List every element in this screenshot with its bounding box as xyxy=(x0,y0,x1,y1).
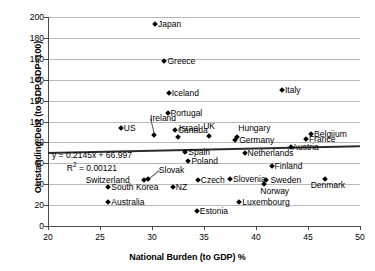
gridline-horizontal xyxy=(48,38,360,39)
data-point-label: South Korea xyxy=(111,183,158,192)
x-axis-tick-label: 50 xyxy=(347,233,373,242)
data-point-marker[interactable] xyxy=(279,87,285,93)
y-axis-tick-label: 160 xyxy=(18,55,44,64)
data-point-label: Czech xyxy=(201,176,225,185)
x-axis-tick-label: 35 xyxy=(191,233,217,242)
data-point-label: Israel xyxy=(179,124,200,133)
y-axis-tick-label: 100 xyxy=(18,118,44,127)
gridline-horizontal xyxy=(48,80,360,81)
trendline-equation-line: y = 0.2145x + 66.997 xyxy=(52,151,132,161)
y-axis-tick-label: 200 xyxy=(18,13,44,22)
data-point-marker[interactable] xyxy=(151,132,157,138)
y-axis-tickmark xyxy=(44,122,48,123)
data-point-label: Netherlands xyxy=(248,149,294,158)
data-point-marker[interactable] xyxy=(175,134,181,140)
data-point-marker[interactable] xyxy=(105,184,111,190)
data-point-marker[interactable] xyxy=(166,90,172,96)
data-point-marker[interactable] xyxy=(118,125,124,131)
data-point-label: Estonia xyxy=(200,207,228,216)
data-point-label: Iceland xyxy=(172,89,199,98)
x-axis-tick-label: 30 xyxy=(139,233,165,242)
y-axis-tickmark xyxy=(44,101,48,102)
x-axis-tickmark xyxy=(256,226,257,230)
gridline-horizontal xyxy=(48,101,360,102)
x-axis-tickmark xyxy=(204,226,205,230)
trendline-equation-annotation: y = 0.2145x + 66.997 R2 = 0.00121 xyxy=(52,151,132,173)
data-point-label: Luxembourg xyxy=(242,198,289,207)
plot-area: JapanGreeceIcelandItalyPortugalUSIreland… xyxy=(48,17,360,226)
y-axis-tickmark xyxy=(44,80,48,81)
y-axis-tickmark xyxy=(44,163,48,164)
r2-exponent: 2 xyxy=(73,161,77,168)
x-axis-tick-label: 25 xyxy=(87,233,113,242)
y-axis-tick-label: 20 xyxy=(18,201,44,210)
y-axis-tick-label: 140 xyxy=(18,76,44,85)
data-point-label: Australia xyxy=(111,198,144,207)
data-point-marker[interactable] xyxy=(105,199,111,205)
y-axis-tick-labels: 020406080100120140160180200 xyxy=(18,0,44,271)
y-axis-tick-label: 0 xyxy=(18,222,44,231)
data-point-label: Ireland xyxy=(150,114,176,123)
y-axis-tick-label: 80 xyxy=(18,138,44,147)
data-point-marker[interactable] xyxy=(172,127,178,133)
data-point-label: Slovenia xyxy=(233,175,266,184)
x-axis-tick-label: 20 xyxy=(35,233,61,242)
y-axis-tick-label: 60 xyxy=(18,159,44,168)
data-point-label: NZ xyxy=(176,183,187,192)
y-axis-tick-label: 120 xyxy=(18,97,44,106)
y-axis-tickmark xyxy=(44,142,48,143)
x-axis-tickmark xyxy=(152,226,153,230)
data-point-marker[interactable] xyxy=(195,177,201,183)
data-point-label: Norway xyxy=(260,187,289,196)
data-point-marker[interactable] xyxy=(269,164,275,170)
data-point-label: Greece xyxy=(167,57,195,66)
trendline-r2-line: R2 = 0.00121 xyxy=(52,161,132,174)
x-axis-title: National Burden (to GDP) % xyxy=(0,252,375,262)
data-point-label: Slovak xyxy=(159,166,185,175)
data-point-marker[interactable] xyxy=(227,176,233,182)
y-axis-tickmark xyxy=(44,205,48,206)
data-point-marker[interactable] xyxy=(242,150,248,156)
y-axis-tickmark xyxy=(44,184,48,185)
data-point-label: Germany xyxy=(239,136,274,145)
gridline-horizontal xyxy=(48,17,360,18)
data-point-label: UK xyxy=(203,122,215,131)
data-point-marker[interactable] xyxy=(194,209,200,215)
data-point-label: US xyxy=(124,124,136,133)
scatter-chart: Outstanding Debt (to GDP,GDP=100) Nation… xyxy=(0,0,375,271)
x-axis-tickmark xyxy=(100,226,101,230)
data-point-label: Denmark xyxy=(311,181,345,190)
x-axis-tick-label: 45 xyxy=(295,233,321,242)
y-axis-tickmark xyxy=(44,38,48,39)
y-axis-line xyxy=(48,17,49,226)
data-point-label: Italy xyxy=(285,86,301,95)
y-axis-tick-label: 180 xyxy=(18,34,44,43)
data-point-label: Finland xyxy=(275,162,303,171)
x-axis-tickmark xyxy=(48,226,49,230)
data-point-marker[interactable] xyxy=(152,21,158,27)
y-axis-tickmark xyxy=(44,17,48,18)
r2-value: = 0.00121 xyxy=(79,162,117,172)
gridline-horizontal xyxy=(48,59,360,60)
data-point-label: Hungary xyxy=(238,124,270,133)
data-point-label: Spain xyxy=(188,148,210,157)
data-point-marker[interactable] xyxy=(206,133,212,139)
data-point-label: Sweden xyxy=(270,176,301,185)
x-axis-tick-label: 40 xyxy=(243,233,269,242)
x-axis-tickmark xyxy=(360,226,361,230)
data-point-label: Austria xyxy=(292,143,318,152)
data-point-marker[interactable] xyxy=(237,199,243,205)
y-axis-tick-label: 40 xyxy=(18,180,44,189)
x-axis-tickmark xyxy=(308,226,309,230)
data-point-marker[interactable] xyxy=(170,184,176,190)
data-point-label: Poland xyxy=(191,157,217,166)
data-point-label: Japan xyxy=(158,20,181,29)
y-axis-tickmark xyxy=(44,59,48,60)
